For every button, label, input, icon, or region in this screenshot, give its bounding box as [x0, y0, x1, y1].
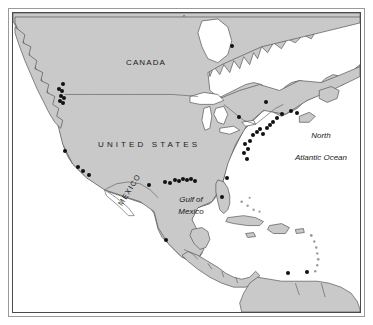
distribution-marker — [271, 120, 275, 124]
distribution-marker — [258, 127, 262, 131]
distribution-marker — [147, 183, 151, 187]
distribution-marker — [87, 173, 91, 177]
distribution-marker — [246, 147, 250, 151]
distribution-marker — [280, 112, 284, 116]
distribution-marker — [251, 133, 255, 137]
distribution-marker — [193, 179, 197, 183]
map-frame-inner: CANADA UNITED STATES MEXICO Gulf of Mexi… — [12, 12, 361, 313]
distribution-marker — [295, 111, 299, 115]
distribution-marker — [81, 169, 85, 173]
distribution-marker — [230, 44, 234, 48]
distribution-marker — [248, 139, 252, 143]
distribution-marker — [261, 132, 265, 136]
distribution-marker — [245, 157, 249, 161]
distribution-marker — [243, 142, 247, 146]
distribution-marker — [168, 181, 172, 185]
distribution-markers-layer — [13, 13, 360, 312]
distribution-marker — [60, 89, 64, 93]
distribution-marker — [164, 238, 168, 242]
distribution-marker — [289, 109, 293, 113]
distribution-marker — [61, 101, 65, 105]
distribution-marker — [275, 116, 279, 120]
distribution-marker — [62, 96, 66, 100]
distribution-marker — [61, 82, 65, 86]
map-figure: CANADA UNITED STATES MEXICO Gulf of Mexi… — [0, 0, 373, 325]
distribution-marker — [225, 176, 229, 180]
distribution-marker — [242, 151, 246, 155]
distribution-marker — [76, 165, 80, 169]
distribution-marker — [305, 270, 309, 274]
distribution-marker — [264, 100, 268, 104]
distribution-marker — [163, 180, 167, 184]
distribution-marker — [220, 195, 224, 199]
distribution-marker — [237, 115, 241, 119]
distribution-marker — [63, 149, 67, 153]
distribution-marker — [286, 271, 290, 275]
